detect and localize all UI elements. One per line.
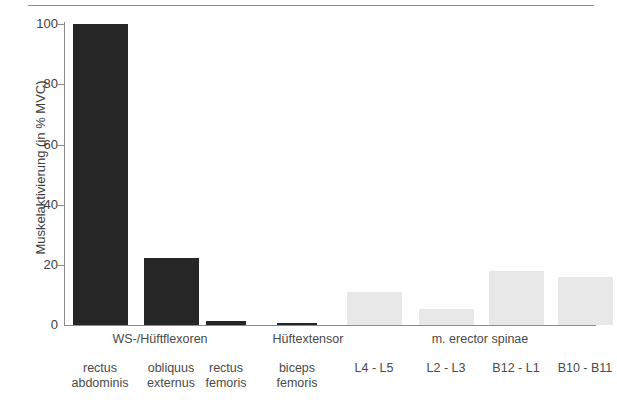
bar-7 [489,271,544,325]
y-tick-label-80: 80 [12,77,58,90]
group-label-ws-hueftflexoren: WS-/Hüftflexoren [90,332,230,346]
bar-3 [206,321,246,325]
y-tick-label-20: 20 [12,258,58,271]
category-label-line2: femoris [242,376,352,391]
y-tick-label-60: 60 [12,138,58,151]
bar-5 [347,292,402,325]
bar-2 [144,258,199,325]
bar-1 [73,24,128,325]
y-tick-label-0: 0 [12,318,58,331]
y-tick-label-40: 40 [12,198,58,211]
bar-8 [558,277,613,325]
y-tick-label-100: 100 [12,17,58,30]
group-label-hueftextensor: Hüftextensor [243,332,373,346]
bar-6 [419,309,474,325]
category-label-line1: B10 - B11 [530,361,617,376]
y-axis-line [64,22,65,326]
bar-4 [277,323,317,325]
group-label-m-erector-spinae: m. erector spinae [380,332,580,346]
x-axis-line [64,325,596,326]
category-label-8: B10 - B11 [530,361,617,376]
